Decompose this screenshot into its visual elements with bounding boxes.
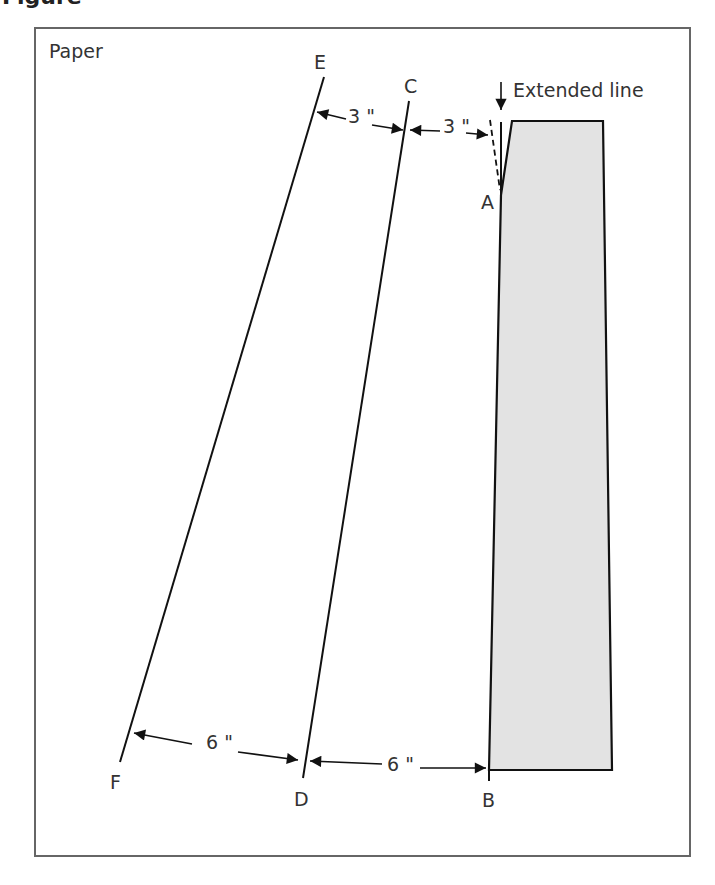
pattern-piece [489, 121, 612, 770]
dim-ca-arrow-left [410, 130, 440, 131]
dashed-extension-line [490, 120, 500, 190]
dimension-db: 6 " [387, 755, 414, 774]
point-label-f: F [110, 773, 121, 792]
dim-ec-arrow-left [317, 112, 346, 119]
dimension-fd: 6 " [206, 733, 233, 752]
line-ef [120, 77, 324, 762]
dimension-ca: 3 " [443, 117, 470, 136]
point-label-e: E [314, 53, 326, 72]
point-label-b: B [482, 791, 495, 810]
dimension-ec: 3 " [348, 107, 375, 126]
pattern-drawing [0, 0, 715, 885]
dim-ec-arrow-right [372, 125, 403, 130]
point-label-a: A [481, 193, 494, 212]
point-label-c: C [404, 77, 417, 96]
dim-fd-arrow-left [134, 733, 192, 744]
point-label-d: D [294, 790, 309, 809]
dim-fd-arrow-right [238, 752, 298, 760]
extended-line-label: Extended line [513, 81, 644, 100]
dim-db-arrow-left [310, 761, 382, 764]
line-cd [303, 101, 409, 778]
paper-label: Paper [49, 42, 103, 61]
